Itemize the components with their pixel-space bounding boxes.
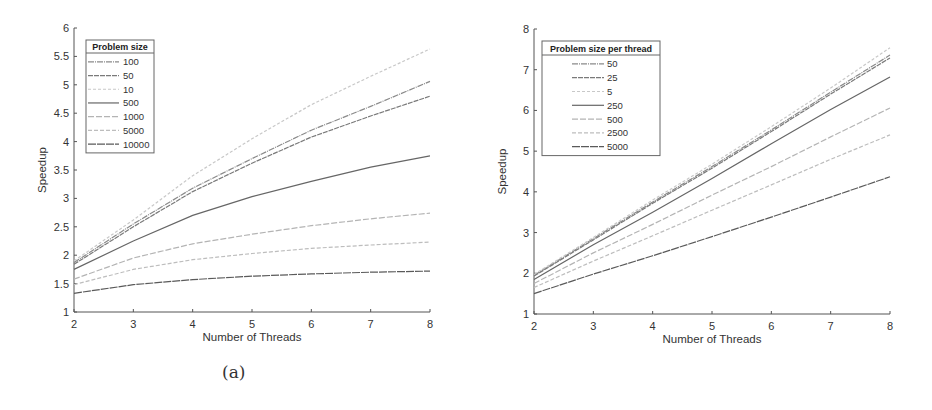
x-tick-label: 7 [828,320,834,332]
legend-title: Problem size per thread [550,44,652,54]
legend-label: 250 [607,100,623,111]
y-tick-label: 2 [63,249,69,261]
legend-label: 500 [123,97,139,108]
y-tick-label: 1 [523,308,529,320]
legend: Problem size10050105001000500010000 [86,40,154,153]
speedup-vs-threads-chart-a: 11.522.533.544.555.562345678Number of Th… [0,0,466,360]
x-tick-label: 7 [368,318,374,330]
legend-label: 500 [607,114,623,125]
x-axis-title: Number of Threads [203,331,302,343]
x-tick-label: 2 [531,320,537,332]
legend-label: 25 [607,72,618,83]
x-tick-label: 5 [709,320,715,332]
y-tick-label: 3 [523,227,529,239]
legend: Problem size per thread50255250500250050… [542,41,660,156]
y-tick-label: 5 [523,145,529,157]
chart-panel-b: 123456782345678Number of ThreadsSpeedupP… [466,0,932,410]
series-line-5000 [74,242,430,285]
y-tick-label: 5 [63,79,69,91]
legend-label: 2500 [607,127,628,138]
legend-label: 50 [607,58,618,69]
x-tick-label: 8 [887,320,893,332]
y-tick-label: 3.5 [54,164,69,176]
y-tick-label: 6 [523,104,529,116]
y-tick-label: 2.5 [54,221,69,233]
legend-label: 5000 [607,141,628,152]
legend-label: 10 [123,84,134,95]
y-tick-label: 5.5 [54,50,69,62]
y-tick-label: 1 [63,306,69,318]
y-tick-label: 1.5 [54,278,69,290]
legend-title: Problem size [92,42,148,52]
x-tick-label: 8 [427,318,433,330]
y-tick-label: 6 [63,22,69,34]
figure-caption-a: (a) [222,362,245,382]
y-tick-label: 3 [63,192,69,204]
x-axis-title: Number of Threads [663,333,762,345]
x-tick-label: 5 [249,318,255,330]
series-line-10000 [74,271,430,293]
legend-label: 5000 [123,125,144,136]
y-axis-title: Speedup [36,147,48,193]
series-line-1000 [74,213,430,279]
y-tick-label: 2 [523,267,529,279]
chart-panel-a: 11.522.533.544.555.562345678Number of Th… [0,0,466,410]
y-tick-label: 4 [63,136,69,148]
legend-label: 10000 [123,139,149,150]
x-tick-label: 2 [71,318,77,330]
y-tick-label: 4.5 [54,107,69,119]
series-line-5000 [534,177,890,294]
speedup-vs-threads-chart-b: 123456782345678Number of ThreadsSpeedupP… [466,0,932,360]
legend-label: 50 [123,70,134,81]
x-tick-label: 3 [590,320,596,332]
x-tick-label: 3 [130,318,136,330]
y-tick-label: 8 [523,23,529,35]
legend-label: 1000 [123,111,144,122]
series-line-500 [74,156,430,270]
legend-label: 100 [123,56,139,67]
legend-label: 5 [607,86,612,97]
x-tick-label: 4 [650,320,656,332]
x-tick-label: 6 [308,318,314,330]
y-tick-label: 7 [523,64,529,76]
series-line-2500 [534,135,890,288]
x-tick-label: 4 [190,318,196,330]
x-tick-label: 6 [768,320,774,332]
y-tick-label: 4 [523,186,529,198]
y-axis-title: Speedup [496,148,508,194]
